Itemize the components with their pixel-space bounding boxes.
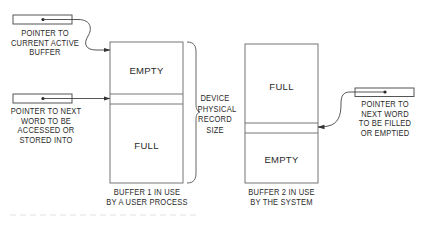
- record-size-label: DEVICE PHYSICAL RECORD SIZE: [198, 94, 233, 136]
- buffer-2-full-region: FULL: [245, 81, 318, 92]
- pointer-label-next-word-filled: POINTER TO NEXT WORD TO BE FILLED OR EMP…: [348, 100, 422, 138]
- buffer-2-caption: BUFFER 2 IN USE BY THE SYSTEM: [239, 188, 325, 207]
- pointer-label-current-active-buffer: POINTER TO CURRENT ACTIVE BUFFER: [8, 29, 82, 58]
- buffer-1-caption: BUFFER 1 IN USE BY A USER PROCESS: [99, 188, 195, 207]
- buffer-2-empty-region: EMPTY: [245, 154, 318, 165]
- buffer-1-full-region: FULL: [110, 140, 183, 151]
- pointer-label-next-word-accessed: POINTER TO NEXT WORD TO BE ACCESSED OR S…: [4, 107, 89, 145]
- buffer-1-box: [110, 42, 183, 183]
- pointer-box-next-word-accessed: [13, 94, 110, 103]
- buffer-1-empty-region: EMPTY: [110, 65, 183, 76]
